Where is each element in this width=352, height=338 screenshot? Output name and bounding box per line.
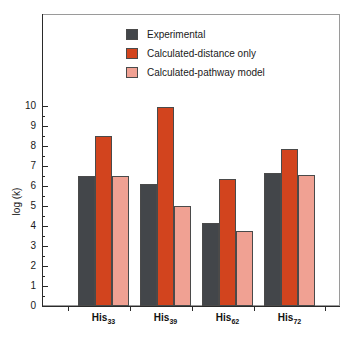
y-axis-tick-label: 7 — [18, 161, 36, 171]
bar — [202, 223, 219, 306]
y-axis-line — [42, 14, 43, 306]
y-axis-tick — [42, 216, 45, 217]
y-axis-tick — [42, 286, 48, 287]
bar — [219, 179, 236, 306]
x-axis-category-label: His62 — [198, 312, 258, 325]
y-axis-tick — [42, 126, 48, 127]
y-axis-tick-label: 10 — [18, 101, 36, 111]
bar — [298, 175, 315, 306]
legend-label: Experimental — [147, 29, 205, 40]
y-axis-tick-label: 1 — [18, 281, 36, 291]
y-axis-tick — [42, 266, 48, 267]
bar — [157, 107, 174, 306]
bar — [236, 231, 253, 306]
y-axis-tick — [42, 186, 48, 187]
legend-swatch-icon — [126, 48, 138, 59]
y-axis-tick-label: 0 — [18, 301, 36, 311]
x-axis-category-label: His33 — [74, 312, 134, 325]
x-axis-tick — [68, 306, 69, 311]
y-axis-tick — [42, 206, 48, 207]
legend-swatch-icon — [126, 29, 138, 40]
legend-label: Calculated-distance only — [147, 48, 256, 59]
x-axis-tick — [254, 306, 255, 311]
y-axis-tick — [42, 246, 48, 247]
legend-item: Experimental — [126, 25, 265, 44]
x-axis-category-label: His72 — [260, 312, 320, 325]
legend-item: Calculated-distance only — [126, 44, 265, 63]
y-axis-tick — [42, 306, 48, 307]
y-axis-title: log (k) — [11, 172, 22, 232]
y-axis-tick — [42, 276, 45, 277]
bar — [112, 176, 129, 306]
x-axis-category-label: His39 — [136, 312, 196, 325]
bar — [140, 184, 157, 306]
x-axis-line — [42, 306, 340, 307]
bar — [95, 136, 112, 306]
bar — [174, 206, 191, 306]
legend-item: Calculated-pathway model — [126, 63, 265, 82]
y-axis-tick — [42, 176, 45, 177]
legend-label: Calculated-pathway model — [147, 67, 265, 78]
y-axis-tick — [42, 156, 45, 157]
bar — [281, 149, 298, 306]
bar — [264, 173, 281, 306]
y-axis-tick — [42, 236, 45, 237]
y-axis-tick — [42, 226, 48, 227]
bar-chart-figure: 012345678910 log (k) His33His39His62His7… — [0, 0, 352, 338]
x-axis-tick — [325, 306, 326, 311]
y-axis-tick-label: 9 — [18, 121, 36, 131]
y-axis-tick-label: 3 — [18, 241, 36, 251]
y-axis-tick — [42, 296, 45, 297]
chart-legend: ExperimentalCalculated-distance onlyCalc… — [126, 25, 265, 82]
y-axis-tick — [42, 116, 45, 117]
y-axis-tick — [42, 196, 45, 197]
bar — [78, 176, 95, 306]
x-axis-tick — [130, 306, 131, 311]
y-axis-tick — [42, 106, 48, 107]
y-axis-tick-label: 2 — [18, 261, 36, 271]
y-axis-tick — [42, 146, 48, 147]
x-axis-tick — [192, 306, 193, 311]
legend-swatch-icon — [126, 67, 138, 78]
y-axis-tick — [42, 166, 48, 167]
y-axis-tick — [42, 256, 45, 257]
y-axis-tick-label: 8 — [18, 141, 36, 151]
y-axis-tick — [42, 136, 45, 137]
